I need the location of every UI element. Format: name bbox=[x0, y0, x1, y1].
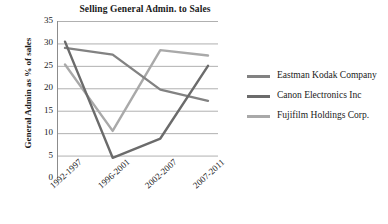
x-tick-label: 1992-1997 bbox=[48, 157, 84, 191]
legend-color-swatch bbox=[247, 75, 270, 78]
x-tick-label: 1996-2001 bbox=[96, 157, 132, 191]
legend-label: Fujifilm Holdings Corp. bbox=[277, 110, 369, 121]
chart-legend: Eastman Kodak CompanyCanon Electronics I… bbox=[247, 70, 388, 130]
legend-entry[interactable]: Eastman Kodak Company bbox=[247, 70, 388, 81]
legend-color-swatch bbox=[247, 115, 270, 118]
x-tick-label: 2002-2007 bbox=[143, 157, 179, 191]
legend-entry[interactable]: Fujifilm Holdings Corp. bbox=[247, 110, 388, 121]
x-tick-label: 2007-2011 bbox=[191, 157, 226, 190]
line-chart: Selling General Admin. to Sales General … bbox=[0, 0, 388, 224]
legend-label: Canon Electronics Inc bbox=[277, 90, 361, 101]
legend-color-swatch bbox=[247, 95, 270, 98]
legend-entry[interactable]: Canon Electronics Inc bbox=[247, 90, 388, 101]
legend-label: Eastman Kodak Company bbox=[277, 70, 377, 81]
